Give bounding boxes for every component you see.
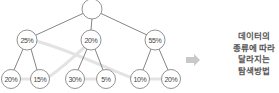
root-node [82, 0, 102, 19]
caption-line: 탐색방법 [226, 66, 279, 78]
right-arrow-icon [186, 54, 200, 66]
caption-text: 데이터의 종류에 따라 달라지는 탐색방법 [226, 31, 279, 77]
node-label: 30% [68, 76, 81, 83]
node-label: 15% [33, 76, 46, 83]
tree-nodes [2, 0, 181, 89]
node-label: 20% [84, 37, 97, 44]
caption-line: 달라지는 [226, 54, 279, 66]
caption-line: 데이터의 [226, 31, 279, 43]
caption-line: 종류에 따라 [226, 43, 279, 55]
node-label: 20% [4, 76, 17, 83]
node-label: 20% [164, 76, 177, 83]
node-label: 55% [148, 37, 161, 44]
node-label: 5% [101, 76, 111, 83]
node-label: 10% [133, 76, 146, 83]
node-label: 25% [20, 37, 33, 44]
